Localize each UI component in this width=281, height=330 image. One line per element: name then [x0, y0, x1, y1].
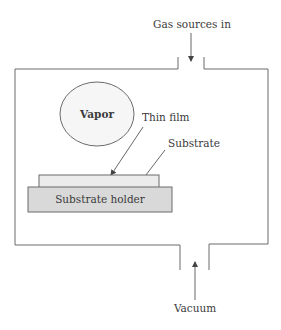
chamber-wall-right: [204, 57, 268, 270]
gas-sources-label: Gas sources in: [153, 18, 231, 30]
vapor-label: Vapor: [79, 108, 114, 120]
cvd-chamber-diagram: Gas sources in Vapor Thin film Substrate…: [0, 0, 281, 330]
substrate-rect: [39, 175, 159, 188]
thin-film-label: Thin film: [142, 111, 190, 123]
substrate-holder-label: Substrate holder: [55, 193, 146, 205]
substrate-label: Substrate: [168, 137, 220, 149]
vacuum-label: Vacuum: [173, 302, 216, 314]
